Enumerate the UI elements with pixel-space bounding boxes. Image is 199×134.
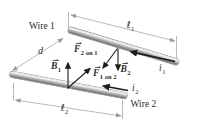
wire1-label: Wire 1: [29, 22, 55, 32]
f1-on-2-force-label: ⇀F1 on 2: [93, 69, 116, 79]
b2-field-label: ⇀B2: [121, 65, 131, 75]
l2-dimension-line: [16, 100, 122, 116]
f2on1-subscript: 2 on 1: [81, 49, 98, 56]
f1on2-vector-hat-icon: ⇀: [95, 64, 101, 72]
physics-figure: Wire 1 Wire 2 ℓ1 ℓ2 d i1 i2 ⇀B1 ⇀B2 ⇀F2 …: [0, 0, 199, 134]
current-i1-label: i1: [159, 64, 165, 74]
f1on2-subscript: 1 on 2: [100, 73, 117, 80]
f2-on-1-force-label: ⇀F2 on 1: [74, 45, 97, 55]
l1-length-label: ℓ1: [127, 20, 134, 31]
l2-subscript: 2: [65, 108, 68, 115]
current-i2-label: i2: [132, 84, 138, 94]
i1-subscript: 1: [162, 68, 165, 75]
b2-vector-hat-icon: ⇀: [122, 60, 128, 68]
l2-symbol: ℓ: [61, 102, 65, 113]
b1-field-label: ⇀B1: [51, 62, 61, 72]
l2-length-label: ℓ2: [61, 103, 68, 114]
l1-subscript: 1: [131, 25, 134, 32]
wire2-label: Wire 2: [131, 100, 157, 110]
b1-vector-hat-icon: ⇀: [53, 57, 59, 65]
f2on1-vector-hat-icon: ⇀: [76, 40, 82, 48]
b2-subscript: 2: [127, 69, 130, 76]
b1-subscript: 1: [58, 66, 61, 73]
l1-symbol: ℓ: [127, 19, 131, 30]
f2-on-1-force-arrow: [103, 49, 118, 69]
separation-d-label: d: [38, 46, 43, 56]
i2-subscript: 2: [135, 88, 138, 95]
